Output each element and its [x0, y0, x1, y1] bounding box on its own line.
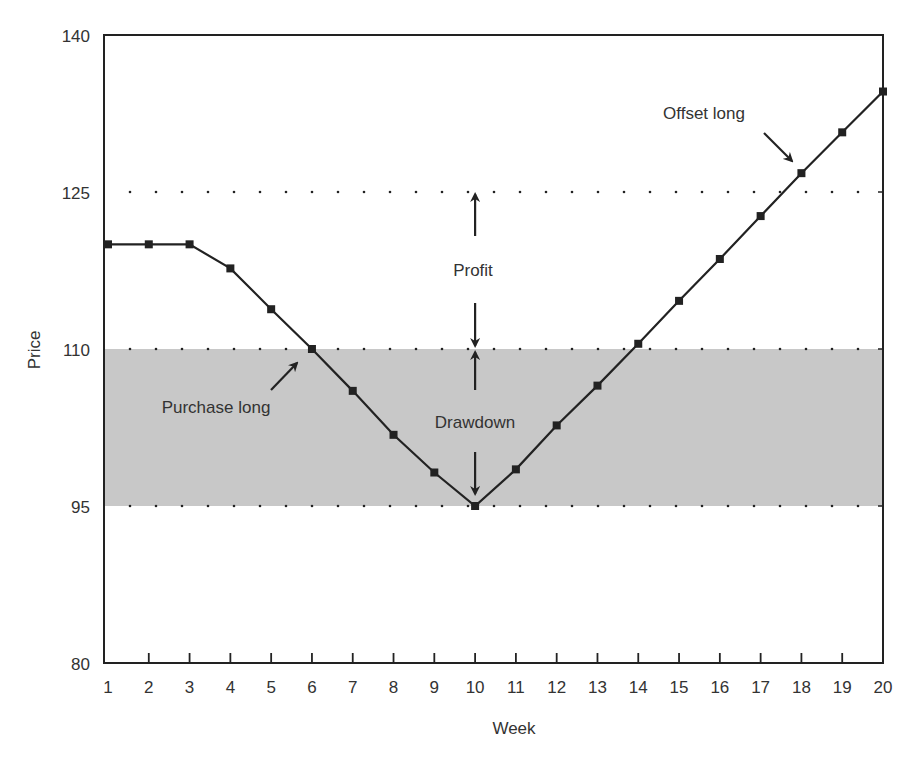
x-tick-label: 4 [226, 678, 235, 697]
data-point-marker [553, 421, 561, 429]
reference-dot [389, 191, 392, 194]
x-tick-label: 11 [507, 678, 525, 697]
reference-dot [545, 348, 548, 351]
data-point-marker [308, 345, 316, 353]
x-tick-label: 8 [389, 678, 398, 697]
x-tick-label: 16 [710, 678, 729, 697]
reference-dot [493, 191, 496, 194]
reference-dot [805, 505, 808, 508]
reference-dot [415, 505, 418, 508]
x-tick-label: 10 [466, 678, 485, 697]
reference-dot [623, 505, 626, 508]
reference-dot [207, 348, 210, 351]
reference-dot [181, 348, 184, 351]
reference-dot [597, 505, 600, 508]
data-point-marker [593, 382, 601, 390]
reference-dot [467, 191, 470, 194]
reference-dot [467, 348, 470, 351]
reference-dot [857, 505, 860, 508]
reference-dot [129, 348, 132, 351]
reference-dot [545, 505, 548, 508]
reference-dot [181, 191, 184, 194]
reference-dot [259, 348, 262, 351]
y-tick-label: 125 [62, 184, 90, 203]
reference-dot [753, 191, 756, 194]
reference-dot [233, 505, 236, 508]
reference-dot [389, 348, 392, 351]
reference-dot [727, 505, 730, 508]
reference-dot [571, 348, 574, 351]
x-axis-title: Week [492, 719, 536, 738]
reference-dot [675, 505, 678, 508]
x-tick-label: 14 [629, 678, 648, 697]
reference-dot [181, 505, 184, 508]
reference-dot [805, 348, 808, 351]
y-tick-label: 95 [71, 498, 90, 517]
reference-dot [571, 191, 574, 194]
reference-dot [701, 191, 704, 194]
x-tick-label: 1 [103, 678, 112, 697]
x-tick-label: 17 [751, 678, 770, 697]
reference-dot [441, 505, 444, 508]
reference-dot [337, 348, 340, 351]
data-point-marker [634, 340, 642, 348]
x-tick-label: 6 [307, 678, 316, 697]
reference-dot [233, 348, 236, 351]
reference-dot [649, 191, 652, 194]
reference-dot [389, 505, 392, 508]
reference-dot [207, 505, 210, 508]
x-tick-label: 20 [874, 678, 893, 697]
reference-dot [441, 348, 444, 351]
data-point-marker [512, 465, 520, 473]
y-tick-label: 110 [63, 341, 90, 360]
reference-dot [675, 191, 678, 194]
reference-dot [493, 505, 496, 508]
purchase-long-label: Purchase long [162, 398, 271, 417]
data-point-marker [797, 169, 805, 177]
reference-dot [129, 505, 132, 508]
x-tick-label: 18 [792, 678, 811, 697]
x-tick-label: 2 [144, 678, 153, 697]
price-chart: 1234567891011121314151617181920140125110… [0, 0, 919, 757]
reference-dot [857, 348, 860, 351]
data-point-marker [471, 502, 479, 510]
reference-dot [831, 348, 834, 351]
reference-dot [233, 191, 236, 194]
reference-dot [623, 191, 626, 194]
reference-dot [831, 505, 834, 508]
profit-label: Profit [453, 261, 493, 280]
reference-dot [649, 505, 652, 508]
reference-dot [519, 348, 522, 351]
reference-dot [337, 505, 340, 508]
reference-dot [831, 191, 834, 194]
x-tick-label: 19 [833, 678, 852, 697]
x-tick-label: 9 [430, 678, 439, 697]
data-point-marker [186, 240, 194, 248]
reference-dot [441, 191, 444, 194]
reference-dot [649, 348, 652, 351]
reference-dot [259, 505, 262, 508]
data-point-marker [838, 128, 846, 136]
y-tick-label: 80 [71, 655, 90, 674]
data-point-marker [675, 297, 683, 305]
reference-dot [779, 505, 782, 508]
reference-dot [779, 191, 782, 194]
reference-dot [597, 348, 600, 351]
x-tick-label: 5 [266, 678, 275, 697]
reference-dot [779, 348, 782, 351]
reference-dot [727, 348, 730, 351]
reference-dot [467, 505, 470, 508]
reference-dot [285, 348, 288, 351]
data-point-marker [757, 212, 765, 220]
reference-dot [363, 191, 366, 194]
reference-dot [285, 505, 288, 508]
reference-dot [805, 191, 808, 194]
reference-dot [415, 191, 418, 194]
reference-dot [857, 191, 860, 194]
reference-dot [155, 505, 158, 508]
reference-dot [701, 348, 704, 351]
reference-dot [727, 191, 730, 194]
y-tick-label: 140 [62, 27, 90, 46]
reference-dot [623, 348, 626, 351]
x-tick-label: 3 [185, 678, 194, 697]
